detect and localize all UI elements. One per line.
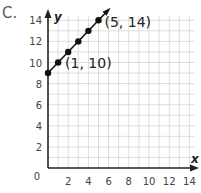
y-axis-arrow-icon — [45, 9, 52, 18]
line-chart: yx246810121424681012140(1, 10)(5, 14) — [0, 0, 201, 193]
x-axis-label: x — [190, 152, 200, 166]
y-tick-label: 6 — [36, 100, 42, 111]
x-tick-label: 6 — [105, 176, 111, 187]
annotation-point-1-10: (1, 10) — [65, 55, 112, 71]
x-tick-label: 4 — [85, 176, 91, 187]
data-point — [55, 59, 61, 65]
annotation-point-5-14: (5, 14) — [105, 14, 152, 30]
x-tick-label: 2 — [65, 176, 71, 187]
y-tick-label: 4 — [36, 121, 42, 132]
y-tick-label: 12 — [29, 36, 42, 47]
data-point — [75, 38, 81, 44]
y-tick-label: 14 — [29, 15, 42, 26]
y-tick-label: 10 — [29, 58, 42, 69]
data-point — [95, 17, 101, 23]
origin-label: 0 — [34, 171, 40, 182]
x-tick-label: 12 — [163, 176, 176, 187]
x-tick-label: 8 — [126, 176, 132, 187]
y-axis-label: y — [54, 10, 63, 24]
y-tick-label: 8 — [36, 79, 42, 90]
data-point — [85, 28, 91, 34]
data-point — [45, 70, 51, 76]
x-tick-label: 10 — [143, 176, 156, 187]
y-tick-label: 2 — [36, 142, 42, 153]
x-tick-label: 14 — [183, 176, 196, 187]
